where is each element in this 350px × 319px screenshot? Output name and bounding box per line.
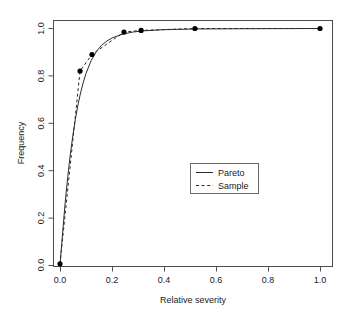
y-tick-label: 0.6 (36, 117, 46, 130)
chart-legend: Pareto Sample (191, 164, 259, 194)
y-axis-ticks (49, 29, 54, 266)
data-point (121, 29, 126, 34)
y-tick-label: 0.0 (36, 259, 46, 272)
data-point (139, 28, 144, 33)
x-tick-label: 0.6 (210, 275, 223, 285)
x-tick-label: 0.2 (106, 275, 119, 285)
x-tick-label: 0.4 (158, 275, 171, 285)
x-tick-label: 0.8 (262, 275, 275, 285)
plot-frame (54, 21, 333, 267)
y-tick-label: 0.8 (36, 70, 46, 83)
series-line-sample (60, 29, 320, 264)
y-axis-title: Frequency (16, 121, 26, 164)
chart-canvas: 0.0 0.2 0.4 0.6 0.8 1.0 0.0 0.2 0.4 0.6 … (0, 0, 350, 319)
x-tick-label: 0.0 (54, 275, 67, 285)
series-line-pareto (60, 29, 320, 266)
x-axis-title: Relative severity (160, 295, 227, 305)
x-axis-tick-labels: 0.0 0.2 0.4 0.6 0.8 1.0 (54, 275, 327, 285)
y-tick-label: 0.2 (36, 212, 46, 225)
x-tick-label: 1.0 (314, 275, 327, 285)
data-point (57, 261, 62, 266)
y-tick-label: 1.0 (36, 22, 46, 35)
data-point (192, 26, 197, 31)
data-point (89, 52, 94, 57)
y-axis-tick-labels: 0.0 0.2 0.4 0.6 0.8 1.0 (36, 22, 46, 271)
data-point (77, 68, 82, 73)
y-tick-label: 0.4 (36, 164, 46, 177)
legend-label-sample: Sample (218, 181, 249, 191)
x-axis-ticks (61, 267, 321, 272)
data-point-markers (57, 26, 322, 267)
data-point (317, 26, 322, 31)
chart-container: 0.0 0.2 0.4 0.6 0.8 1.0 0.0 0.2 0.4 0.6 … (0, 0, 350, 319)
legend-label-pareto: Pareto (218, 168, 245, 178)
